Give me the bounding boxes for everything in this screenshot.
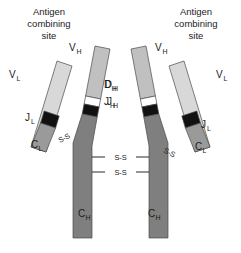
v-heavy-left-label: V H bbox=[69, 42, 82, 55]
d-heavy-right-sub: H bbox=[113, 85, 118, 92]
v-heavy-right-label: V H bbox=[155, 42, 168, 55]
v-light-left-label: V L bbox=[9, 69, 21, 82]
hinge-bond-lower-label: S-S bbox=[115, 168, 127, 177]
c-heavy-right-sub: H bbox=[156, 214, 161, 221]
j-light-left-sub: L bbox=[31, 118, 35, 125]
j-light-left-base: J bbox=[25, 112, 30, 123]
c-light-right-sub: L bbox=[203, 147, 207, 154]
antigen-site-right-line2: combining bbox=[174, 18, 217, 29]
light-heavy-disulfide-bond-left-group: S-S bbox=[57, 131, 72, 145]
j-heavy-right-base: J bbox=[107, 96, 112, 107]
antigen-site-right-line3: site bbox=[189, 30, 204, 41]
c-light-left-sub: L bbox=[39, 145, 43, 152]
antigen-site-left-line1: Antigen bbox=[33, 6, 65, 17]
j-light-right-base: J bbox=[201, 119, 206, 130]
c-light-left-base: C bbox=[31, 139, 38, 150]
j-light-right-sub: L bbox=[207, 125, 211, 132]
c-heavy-left-base: C bbox=[78, 208, 85, 219]
v-light-right-sub: L bbox=[224, 75, 228, 82]
antigen-combining-site-label-left: Antigen combining site bbox=[27, 6, 70, 41]
v-heavy-right-sub: H bbox=[163, 48, 168, 55]
v-light-right-label: V L bbox=[216, 69, 228, 82]
c-heavy-right-base: C bbox=[148, 208, 155, 219]
antigen-site-right-line1: Antigen bbox=[180, 6, 212, 17]
v-light-left-base: V bbox=[9, 69, 16, 80]
v-heavy-left-base: V bbox=[69, 42, 76, 53]
j-light-left-label: J L bbox=[25, 112, 35, 125]
antigen-combining-site-label-right: Antigen combining site bbox=[174, 6, 217, 41]
antibody-diagram-canvas: S-S S-S S-S S-S Antigen combining site V… bbox=[0, 0, 241, 253]
c-light-right-base: C bbox=[195, 141, 202, 152]
c-heavy-left-sub: H bbox=[86, 214, 91, 221]
v-light-left-sub: L bbox=[17, 75, 21, 82]
j-heavy-right-label: J H bbox=[107, 96, 118, 109]
antibody-structure-figure: S-S S-S S-S S-S Antigen combining site V… bbox=[0, 0, 241, 253]
v-light-right-base: V bbox=[216, 69, 223, 80]
left-heavy-chain-variable-region bbox=[86, 46, 110, 99]
antigen-site-left-line2: combining bbox=[27, 18, 70, 29]
d-heavy-right-base: D bbox=[105, 79, 112, 90]
v-heavy-left-sub: H bbox=[77, 48, 82, 55]
light-heavy-disulfide-bond-left: S-S bbox=[57, 131, 72, 145]
right-light-chain bbox=[169, 61, 210, 152]
v-heavy-right-base: V bbox=[155, 42, 162, 53]
right-heavy-chain-variable-region bbox=[131, 46, 155, 99]
antigen-site-left-line3: site bbox=[42, 30, 57, 41]
hinge-bond-upper-label: S-S bbox=[115, 153, 127, 162]
hinge-disulfide-bonds: S-S S-S bbox=[92, 153, 149, 177]
j-heavy-right-sub: H bbox=[113, 102, 118, 109]
